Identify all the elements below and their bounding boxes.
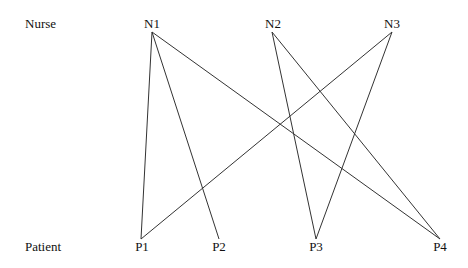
- nurse-node-n3: N3: [384, 17, 400, 31]
- patient-row-label: Patient: [25, 240, 61, 254]
- nurse-node-n2: N2: [265, 17, 281, 31]
- patient-node-p1: P1: [135, 240, 149, 254]
- edge-n2-p3: [272, 32, 316, 239]
- patient-node-p2: P2: [212, 240, 226, 254]
- edge-n1-p1: [141, 32, 152, 239]
- edge-n1-p2: [152, 32, 219, 239]
- patient-node-p4: P4: [433, 240, 447, 254]
- bipartite-graph-edges: [0, 0, 468, 268]
- nurse-node-n1: N1: [144, 17, 160, 31]
- edge-n1-p4: [152, 32, 440, 239]
- nurse-row-label: Nurse: [25, 17, 56, 31]
- edge-n2-p4: [272, 32, 440, 239]
- patient-node-p3: P3: [309, 240, 323, 254]
